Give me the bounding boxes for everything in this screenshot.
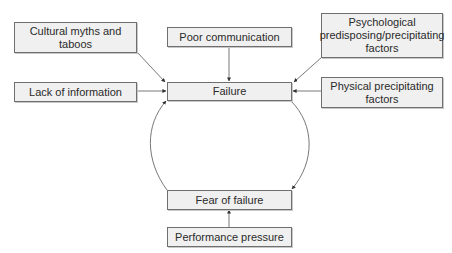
arrow-psychological-to-failure — [294, 57, 322, 82]
node-label: Psychological predisposing/precipitating… — [320, 16, 445, 55]
node-label: Failure — [213, 85, 247, 98]
node-label: Cultural myths and taboos — [18, 25, 133, 51]
node-poor-communication: Poor communication — [167, 27, 292, 47]
node-lack-of-information: Lack of information — [14, 82, 137, 102]
node-label: Physical precipitating factors — [325, 80, 439, 106]
node-label: Poor communication — [179, 31, 279, 44]
arrow-cultural-to-failure — [137, 52, 165, 82]
arrow-failure-to-fear — [291, 101, 309, 189]
node-physical-factors: Physical precipitating factors — [321, 77, 443, 108]
node-psychological-factors: Psychological predisposing/precipitating… — [321, 13, 443, 58]
node-label: Performance pressure — [175, 231, 284, 244]
node-fear-of-failure: Fear of failure — [167, 190, 292, 210]
node-failure: Failure — [167, 82, 292, 101]
arrow-fear-to-failure — [150, 101, 167, 190]
node-performance-pressure: Performance pressure — [167, 227, 292, 247]
node-label: Fear of failure — [196, 194, 264, 207]
node-cultural-myths: Cultural myths and taboos — [14, 22, 137, 53]
node-label: Lack of information — [29, 86, 122, 99]
